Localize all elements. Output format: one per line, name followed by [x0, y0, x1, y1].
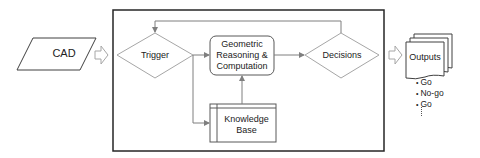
output-item: Go [416, 77, 444, 88]
block-arrow-in-icon [95, 46, 108, 64]
geometric-label: Geometric Reasoning & Computation [210, 39, 274, 72]
block-arrow-out-icon [389, 46, 402, 64]
decisions-label: Decisions [312, 50, 372, 61]
edge-trigger-kb [193, 55, 209, 123]
trigger-label: Trigger [130, 50, 180, 61]
cad-label: CAD [40, 48, 88, 59]
outputs-list: Go No-go Go [416, 77, 444, 110]
vertical-ellipsis-icon [421, 107, 422, 116]
geometric-label-line-1: Geometric [210, 39, 274, 50]
outputs-label: Outputs [406, 52, 444, 63]
geometric-label-line-2: Reasoning & [210, 50, 274, 61]
knowledge-base-label: Knowledge Base [217, 114, 276, 136]
output-item: No-go [416, 88, 444, 99]
edge-decisions-trigger-feedback [155, 21, 341, 33]
geometric-label-line-3: Computation [210, 61, 274, 72]
kb-label-line-1: Knowledge [217, 114, 276, 125]
kb-label-line-2: Base [217, 125, 276, 136]
